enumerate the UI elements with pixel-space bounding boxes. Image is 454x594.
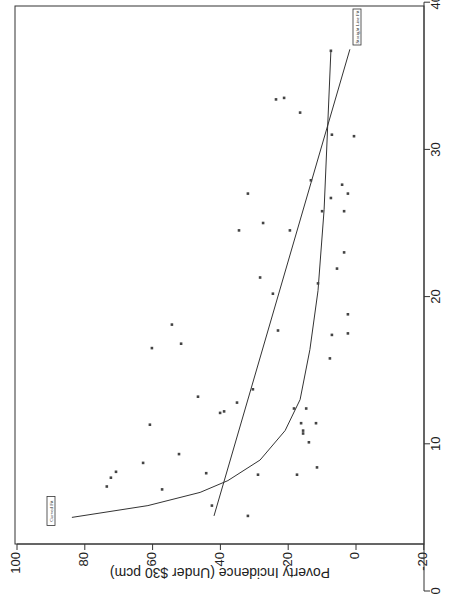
data-point (142, 462, 145, 465)
svg-text:Curved Fit: Curved Fit (49, 500, 54, 522)
data-point (293, 407, 296, 410)
data-point (330, 197, 333, 200)
data-point (275, 98, 278, 101)
fit-lines (72, 49, 350, 517)
data-point (197, 395, 200, 398)
data-point (331, 133, 334, 136)
data-point (331, 334, 334, 337)
data-point (205, 472, 208, 475)
data-point (300, 422, 303, 425)
x-tick-label: 20 (428, 289, 443, 303)
data-point (259, 276, 262, 279)
data-point (296, 473, 299, 476)
data-point (347, 192, 350, 195)
data-point (302, 432, 305, 435)
data-points (106, 50, 356, 518)
straight-line-fit-line (214, 49, 350, 516)
scatter-chart: 010203040 -20020406080100 Straight Line … (0, 0, 454, 594)
data-point (257, 473, 260, 476)
data-point (347, 332, 350, 335)
svg-text:Straight Line Fit: Straight Line Fit (355, 10, 360, 44)
data-point (308, 441, 311, 444)
curved-fit-line (72, 51, 331, 518)
data-point (151, 347, 154, 350)
data-point (329, 357, 332, 360)
data-point (330, 50, 333, 53)
data-point (310, 179, 313, 182)
x-axis: 010203040 (424, 0, 443, 594)
data-point (305, 407, 308, 410)
data-point (238, 229, 241, 232)
curved-fit-label: Curved Fit (47, 497, 55, 526)
plot-frame (15, 6, 424, 544)
data-point (219, 412, 222, 415)
data-point (149, 423, 152, 426)
data-point (106, 485, 109, 488)
data-point (115, 471, 118, 474)
data-point (247, 515, 250, 518)
data-point (343, 251, 346, 254)
data-point (283, 97, 286, 100)
y-tick-label: 0 (347, 552, 362, 559)
x-tick-label: 30 (428, 142, 443, 156)
data-point (272, 292, 275, 295)
data-point (110, 476, 113, 479)
y-tick-label: 40 (212, 552, 227, 566)
data-point (247, 192, 250, 195)
y-axis-title: Poverty Incidence (Under $30 pcm) (110, 565, 330, 581)
y-tick-label: 100 (8, 552, 23, 574)
data-point (315, 422, 318, 425)
data-point (236, 401, 239, 404)
data-point (321, 210, 324, 213)
data-point (252, 388, 255, 391)
data-point (180, 342, 183, 345)
x-tick-label: 10 (428, 437, 443, 451)
data-point (336, 267, 339, 270)
x-tick-label: 40 (428, 0, 443, 9)
data-point (277, 329, 280, 332)
data-point (353, 135, 356, 138)
data-point (262, 222, 265, 225)
data-point (211, 504, 214, 507)
data-point (299, 111, 302, 114)
y-tick-label: 60 (144, 552, 159, 566)
x-tick-label: 0 (428, 587, 443, 594)
y-tick-label: 80 (76, 552, 91, 566)
data-point (161, 488, 164, 491)
data-point (289, 229, 292, 232)
data-point (343, 210, 346, 213)
data-point (317, 282, 320, 285)
data-point (341, 183, 344, 186)
y-tick-label: 20 (280, 552, 295, 566)
data-point (302, 429, 305, 432)
data-point (223, 410, 226, 413)
data-point (347, 313, 350, 316)
data-point (171, 323, 174, 326)
fit-labels: Straight Line FitCurved Fit (47, 9, 361, 526)
data-point (316, 466, 319, 469)
data-point (178, 453, 181, 456)
straight-fit-label: Straight Line Fit (353, 9, 361, 45)
y-tick-label: -20 (415, 552, 430, 571)
